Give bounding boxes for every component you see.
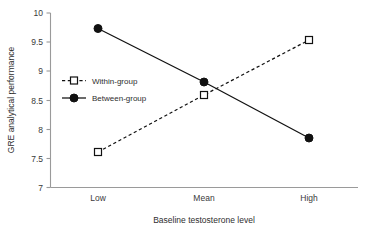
- legend-item-within-group: Within-group: [62, 77, 138, 86]
- chart-figure: 10 9.5 9 8.5 8 7.5 7 Low Mean High Basel…: [0, 0, 365, 232]
- y-tick-label-9: 9: [38, 66, 43, 76]
- x-tick-label-mean: Mean: [193, 193, 215, 203]
- y-tick-label-8: 8: [38, 125, 43, 135]
- between-group-point-mean: [200, 78, 208, 86]
- y-tick-label-7: 7: [38, 183, 43, 193]
- x-tick-label-high: High: [300, 193, 318, 203]
- y-tick-label-8-5: 8.5: [31, 96, 43, 106]
- y-tick-label-10: 10: [34, 8, 44, 18]
- legend-label-between-group: Between-group: [92, 94, 147, 103]
- y-tick-label-7-5: 7.5: [31, 154, 43, 164]
- between-group-point-low: [94, 25, 102, 33]
- legend-label-within-group: Within-group: [92, 77, 138, 86]
- y-tick-label-9-5: 9.5: [31, 37, 43, 47]
- legend-item-between-group: Between-group: [62, 94, 147, 103]
- within-group-point-mean: [201, 92, 208, 99]
- line-chart: 10 9.5 9 8.5 8 7.5 7 Low Mean High Basel…: [0, 0, 365, 232]
- y-axis-title: GRE analytical performance: [6, 47, 16, 154]
- x-axis-title: Baseline testosterone level: [153, 215, 255, 225]
- filled-circle-icon: [70, 94, 78, 102]
- between-group-point-high: [305, 134, 313, 142]
- within-group-point-low: [95, 149, 102, 156]
- x-tick-label-low: Low: [90, 193, 106, 203]
- open-square-icon: [71, 77, 78, 84]
- within-group-point-high: [306, 37, 313, 44]
